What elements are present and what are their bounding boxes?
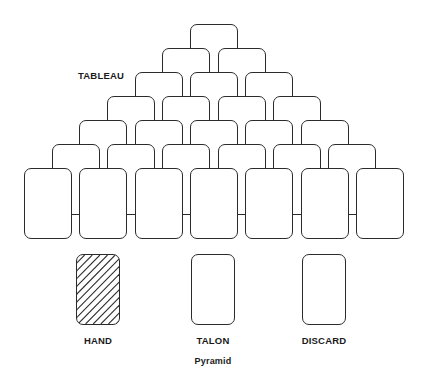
tableau-card[interactable]	[190, 168, 238, 239]
tableau-card[interactable]	[245, 168, 293, 239]
discard-pile-card[interactable]	[302, 254, 346, 325]
tableau-card[interactable]	[79, 168, 127, 239]
hand-pile-label: HAND	[38, 335, 158, 346]
tableau-label: TABLEAU	[78, 70, 124, 81]
talon-pile-card[interactable]	[191, 254, 235, 325]
tableau-card[interactable]	[135, 168, 183, 239]
diagram-caption: Pyramid	[0, 356, 426, 366]
talon-pile-label: TALON	[153, 335, 273, 346]
hatch-pattern-icon	[77, 255, 119, 324]
tableau-card[interactable]	[301, 168, 349, 239]
tableau-card[interactable]	[24, 168, 72, 239]
tableau-card[interactable]	[356, 168, 404, 239]
hand-pile-card[interactable]	[76, 254, 120, 325]
pyramid-solitaire-diagram: TABLEAU HANDTALONDISCARD Pyramid	[0, 0, 426, 385]
discard-pile-label: DISCARD	[264, 335, 384, 346]
